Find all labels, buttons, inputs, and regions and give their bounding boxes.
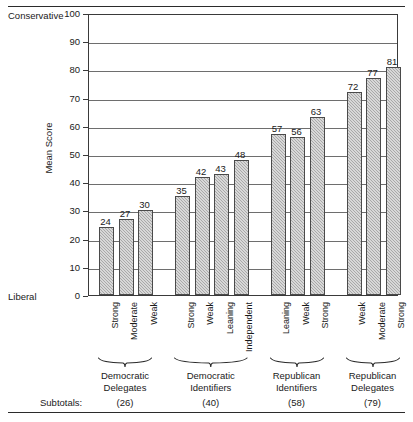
bar-value-label: 56 [291,126,302,137]
y-tick-label: 100 [64,9,80,19]
group-brace [270,357,324,368]
category-label: Leaning [281,302,291,334]
category-label: Strong [110,302,120,329]
y-tick-label: 80 [69,66,80,76]
subtotal-value: (40) [202,397,219,408]
bar [195,177,210,295]
category-label: Moderate [377,302,387,340]
category-label: Leaning [225,302,235,334]
category-label: Weak [357,302,367,325]
category-label: Moderate [129,302,139,340]
bar-value-label: 72 [348,81,359,92]
subtotals-label: Subtotals: [40,397,82,408]
y-tick-label: 20 [69,235,80,245]
bar-value-label: 77 [367,67,378,78]
group-brace [174,357,248,368]
bar-value-label: 30 [139,199,150,210]
y-tick-label: 10 [69,263,80,273]
bar [138,210,153,295]
group-label-line1: Democratic [187,370,235,382]
group-label-line2: Delegates [349,382,397,394]
bar-value-label: 35 [176,185,187,196]
group-label-line1: Democratic [101,370,149,382]
bar [347,92,362,295]
bar-value-label: 48 [235,149,246,160]
group-label-line2: Identifiers [187,382,235,394]
group-label: RepublicanDelegates [349,370,397,393]
bar [271,134,286,295]
bar-value-label: 24 [100,216,111,227]
bar-value-label: 43 [215,163,226,174]
gridline [89,71,397,72]
group-brace [98,357,152,368]
y-tick-label: 40 [69,178,80,188]
y-tick-label: 70 [69,94,80,104]
subtotal-value: (79) [364,397,381,408]
bar [386,67,401,295]
bar-value-label: 63 [311,106,322,117]
bar-value-label: 42 [196,166,207,177]
category-label: Weak [149,302,159,325]
bottom-rule [8,412,405,413]
gridline [89,43,397,44]
y-tick-label: 30 [69,207,80,217]
bar-value-label: 81 [387,56,398,67]
subtotal-value: (58) [288,397,305,408]
bar [99,227,114,295]
bar [214,174,229,295]
group-label-line1: Republican [349,370,397,382]
bar-value-label: 57 [272,123,283,134]
group-label: DemocraticIdentifiers [187,370,235,393]
y-tick-label: 50 [69,150,80,160]
category-label: Strong [320,302,330,329]
y-axis-ticks: 0102030405060708090100 [0,0,88,296]
subtotal-value: (26) [117,397,134,408]
category-label: Weak [205,302,215,325]
group-brace [346,357,400,368]
chart-figure: Conservative Liberal Mean Score 01020304… [0,0,413,422]
group-label: DemocraticDelegates [101,370,149,393]
group-label-line2: Identifiers [273,382,321,394]
y-tick-label: 90 [69,37,80,47]
bar [310,117,325,295]
bar [234,160,249,295]
group-label-line1: Republican [273,370,321,382]
bar [119,219,134,295]
group-label-line2: Delegates [101,382,149,394]
category-label: Weak [301,302,311,325]
category-label: Independent [244,302,254,352]
y-tick-label: 60 [69,122,80,132]
category-label: Strong [396,302,406,329]
group-label: RepublicanIdentifiers [273,370,321,393]
bar [290,137,305,295]
category-label: Strong [186,302,196,329]
y-tick-label: 0 [75,291,80,301]
y-tick-mark [83,296,88,297]
bar [366,78,381,295]
bar-value-label: 27 [120,208,131,219]
bar [175,196,190,295]
